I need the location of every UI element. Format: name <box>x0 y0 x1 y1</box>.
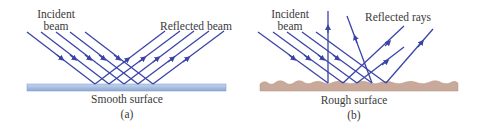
reflected-arrows-b <box>328 27 422 65</box>
incident-beam-label-b-line1: Incident <box>271 8 309 20</box>
reflected-beam-label: Reflected beam <box>160 20 232 32</box>
incident-beam-label-a-line2: beam <box>44 20 69 32</box>
reflected-arrows-a <box>123 58 188 63</box>
reflected-rays-label: Reflected rays <box>365 11 431 23</box>
smooth-surface <box>27 84 226 91</box>
smooth-surface-label: Smooth surface <box>91 93 163 105</box>
panel-a-smooth-reflection <box>27 31 226 91</box>
incident-arrows-b <box>289 55 338 59</box>
rough-surface-label: Rough surface <box>321 94 388 106</box>
caption-a: (a) <box>121 108 134 120</box>
incident-arrows-a <box>57 55 119 59</box>
incident-beam-label-b-line2: beam <box>278 20 303 32</box>
caption-b: (b) <box>347 109 360 121</box>
incident-beam-label-a-line1: Incident <box>37 8 75 20</box>
